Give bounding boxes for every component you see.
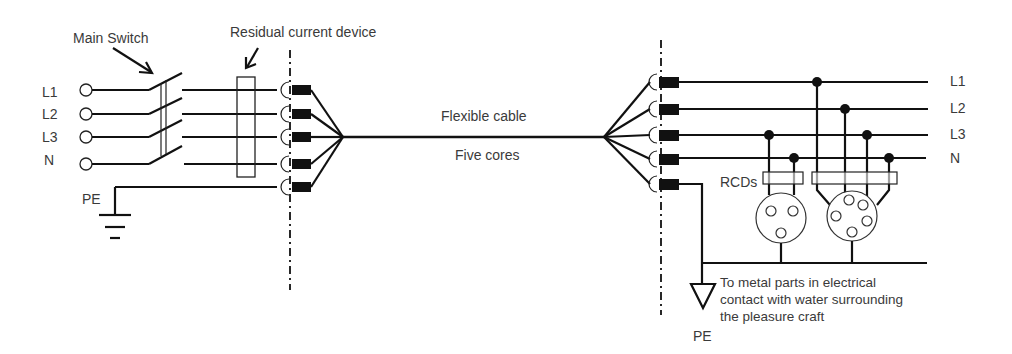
label-l1-right: L1 xyxy=(950,73,966,89)
label-n-right: N xyxy=(950,150,960,166)
rcd-1-icon xyxy=(763,172,803,184)
note-line-2: contact with water surrounding xyxy=(720,292,903,307)
note-line-1: To metal parts in electrical xyxy=(720,275,876,290)
note-line-3: the pleasure craft xyxy=(720,309,825,324)
wiring-diagram: L1 L2 L3 N Main Switch Residual current … xyxy=(0,0,1012,354)
terminal-n-icon xyxy=(80,158,92,170)
three-phase-socket-icon xyxy=(827,191,877,241)
terminal-l1-icon xyxy=(80,84,92,96)
pe-left xyxy=(99,187,277,238)
connector-right-icon xyxy=(604,74,679,192)
flexible-cable-label: Flexible cable xyxy=(441,108,527,124)
pe-right-label: PE xyxy=(693,328,712,344)
residual-current-device-icon xyxy=(237,77,255,177)
rcd-2-icon xyxy=(812,172,897,184)
rcds-label: RCDs xyxy=(720,174,757,190)
single-phase-socket-icon xyxy=(756,193,806,243)
rcd-label: Residual current device xyxy=(230,24,377,40)
label-n-left: N xyxy=(44,152,54,168)
supply-terminals: L1 L2 L3 N xyxy=(42,84,149,170)
busbars-right xyxy=(679,82,928,158)
arrow-main-switch-icon xyxy=(113,48,152,73)
junction-dots xyxy=(764,77,894,163)
label-l3-left: L3 xyxy=(42,129,58,145)
label-l1-left: L1 xyxy=(42,84,58,100)
arrow-rcd-icon xyxy=(246,48,258,68)
main-switch-icon xyxy=(149,73,182,164)
wires-after-switch xyxy=(182,90,277,164)
earth-triangle-icon xyxy=(691,284,715,308)
label-l3-right: L3 xyxy=(950,126,966,142)
socket-feeds xyxy=(769,82,889,205)
label-l2-right: L2 xyxy=(950,100,966,116)
pe-left-label: PE xyxy=(82,191,101,207)
terminal-l2-icon xyxy=(80,108,92,120)
five-cores-label: Five cores xyxy=(455,147,520,163)
label-l2-left: L2 xyxy=(42,106,58,122)
terminal-l3-icon xyxy=(80,131,92,143)
main-switch-label: Main Switch xyxy=(73,30,148,46)
